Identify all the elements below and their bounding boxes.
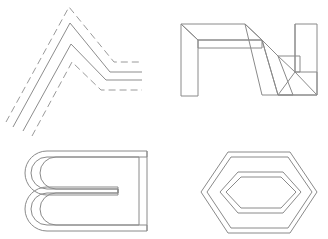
canvas-background: [0, 0, 328, 239]
figure-sheet-canvas: [0, 0, 328, 239]
